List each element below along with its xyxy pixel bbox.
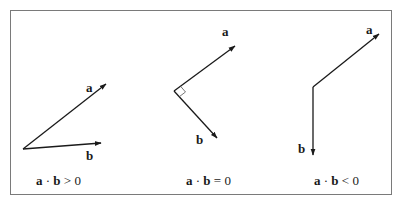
caption-dot: ·: [46, 173, 50, 188]
caption-zero: a · b = 0: [186, 173, 231, 189]
panel-negative: a b: [298, 22, 379, 156]
right-angle-marker: [180, 86, 186, 96]
vector-b-label: b: [196, 132, 203, 147]
vector-a-label: a: [86, 80, 93, 95]
caption-negative: a · b < 0: [314, 173, 359, 189]
caption-dot: ·: [324, 173, 328, 188]
vector-b-arrow: [174, 91, 217, 138]
caption-relation: =: [214, 173, 221, 188]
caption-relation: >: [64, 173, 71, 188]
caption-b: b: [331, 173, 338, 188]
vector-b-label: b: [298, 141, 305, 156]
caption-positive: a · b > 0: [36, 173, 81, 189]
vector-b-label: b: [86, 148, 93, 163]
caption-dot: ·: [196, 173, 200, 188]
vector-a-label: a: [222, 24, 229, 39]
vector-a-arrow: [313, 34, 379, 87]
panel-zero: a b: [174, 24, 235, 147]
caption-b: b: [203, 173, 210, 188]
vector-a-arrow: [23, 84, 106, 149]
caption-value: 0: [224, 173, 231, 188]
caption-b: b: [53, 173, 60, 188]
vector-a-arrow: [174, 46, 235, 91]
caption-a: a: [36, 173, 43, 188]
caption-value: 0: [352, 173, 359, 188]
caption-value: 0: [74, 173, 81, 188]
caption-a: a: [314, 173, 321, 188]
caption-relation: <: [342, 173, 349, 188]
panel-positive: a b: [23, 80, 106, 163]
caption-a: a: [186, 173, 193, 188]
vector-a-label: a: [366, 22, 373, 37]
